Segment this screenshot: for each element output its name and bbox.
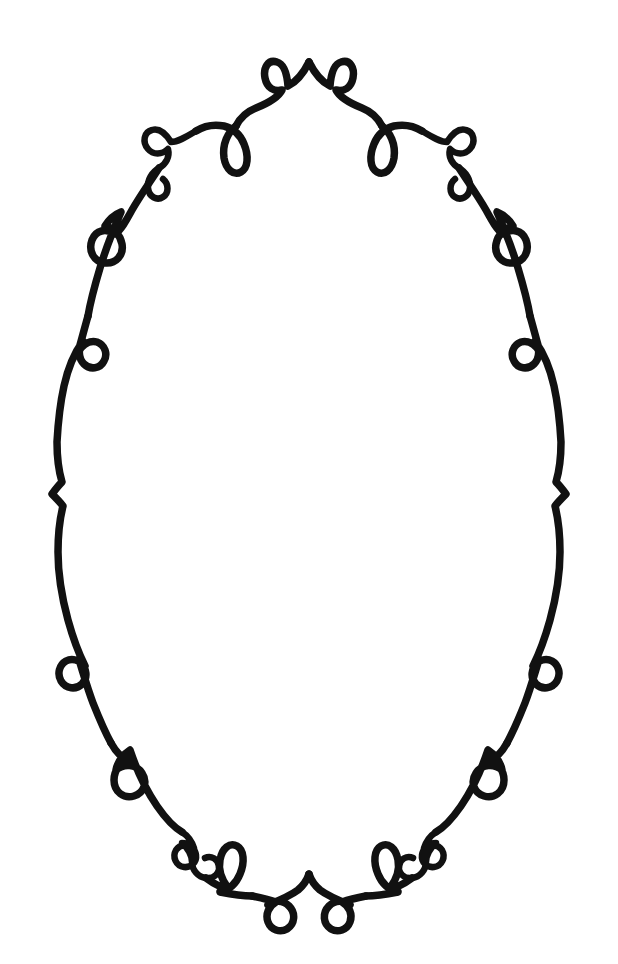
- paper-background: [0, 0, 618, 964]
- artwork-canvas: [0, 0, 618, 964]
- decorative-oval-frame: [0, 0, 618, 964]
